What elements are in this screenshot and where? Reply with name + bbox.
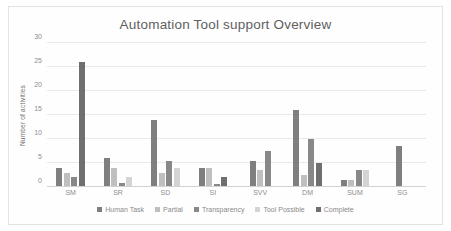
y-axis-tick: 15 [34, 105, 42, 112]
bar[interactable] [257, 170, 263, 187]
legend-swatch-icon [316, 207, 321, 212]
y-axis-tick: 5 [38, 153, 42, 160]
bar[interactable] [363, 170, 369, 187]
bar[interactable] [174, 168, 180, 187]
bar-group [331, 43, 378, 187]
y-axis-tick: 0 [38, 177, 42, 184]
x-axis-tick: SVV [237, 189, 284, 196]
bar-group [284, 43, 331, 187]
legend-item[interactable]: Tool Possible [255, 206, 304, 213]
legend-label: Tool Possible [263, 206, 304, 213]
legend-swatch-icon [97, 207, 102, 212]
x-axis-tick: SR [94, 189, 141, 196]
bar[interactable] [166, 161, 172, 187]
x-axis-tick: DM [284, 189, 331, 196]
legend-label: Transparency [202, 206, 245, 213]
y-axis-label: Number of activities [17, 43, 29, 187]
y-axis-tick: 30 [34, 33, 42, 40]
x-axis-line [47, 186, 426, 187]
bar-group [47, 43, 94, 187]
y-axis-label-text: Number of activities [20, 84, 27, 145]
bar[interactable] [111, 168, 117, 187]
legend-item[interactable]: Human Task [97, 206, 144, 213]
x-axis-tick-labels: SMSRSDSISVVDMSUMSG [47, 189, 426, 196]
bar-group [94, 43, 141, 187]
bar[interactable] [308, 139, 314, 187]
bar-group [237, 43, 284, 187]
legend-swatch-icon [255, 207, 260, 212]
legend-swatch-icon [155, 207, 160, 212]
legend-label: Partial [163, 206, 183, 213]
legend-swatch-icon [194, 207, 199, 212]
bar-group [189, 43, 236, 187]
bar[interactable] [293, 110, 299, 187]
x-axis-tick: SI [189, 189, 236, 196]
x-axis-tick: SG [379, 189, 426, 196]
y-axis-tick: 20 [34, 81, 42, 88]
bar[interactable] [316, 163, 322, 187]
bar[interactable] [104, 158, 110, 187]
legend-item[interactable]: Transparency [194, 206, 245, 213]
legend-label: Human Task [105, 206, 144, 213]
legend-item[interactable]: Partial [155, 206, 183, 213]
bar[interactable] [265, 151, 271, 187]
bar-group [142, 43, 189, 187]
bar-group [379, 43, 426, 187]
bar[interactable] [64, 173, 70, 187]
bar[interactable] [79, 62, 85, 187]
legend-label: Complete [324, 206, 354, 213]
bar-groups [47, 43, 426, 187]
bar[interactable] [396, 146, 402, 187]
x-axis-tick: SM [47, 189, 94, 196]
bar[interactable] [356, 170, 362, 187]
legend-item[interactable]: Complete [316, 206, 354, 213]
chart-legend: Human TaskPartialTransparencyTool Possib… [9, 206, 442, 213]
bar[interactable] [56, 168, 62, 187]
bar[interactable] [199, 168, 205, 187]
x-axis-tick: SUM [331, 189, 378, 196]
bar[interactable] [159, 173, 165, 187]
y-axis-tick: 10 [34, 129, 42, 136]
x-axis-tick: SD [142, 189, 189, 196]
chart-title: Automation Tool support Overview [9, 17, 442, 32]
y-axis-tick: 25 [34, 57, 42, 64]
bar[interactable] [206, 168, 212, 187]
plot-area: 051015202530 [47, 43, 426, 187]
chart-card: Automation Tool support Overview Number … [8, 6, 443, 225]
bar[interactable] [250, 161, 256, 187]
bar[interactable] [151, 120, 157, 187]
